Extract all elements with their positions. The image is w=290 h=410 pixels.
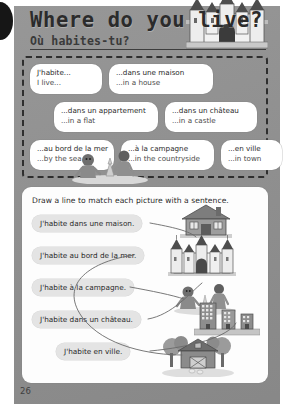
vocabulary-french: ...en ville <box>228 144 275 154</box>
vocabulary-french: ...dans une maison <box>116 68 206 78</box>
vocabulary-chip: ...dans une maison ...in a house <box>109 64 213 94</box>
page-title: Where do you live? <box>30 10 265 32</box>
vocabulary-french: J'habite... <box>37 68 95 78</box>
vocabulary-chip: ...dans un appartement ...in a flat <box>54 102 158 132</box>
vocabulary-row-1: J'habite... I live... ...dans une maison… <box>30 64 213 94</box>
page-subtitle: Où habites-tu? <box>30 34 265 48</box>
sentence-option[interactable]: J'habite au bord de la mer. <box>32 247 144 264</box>
exercise-card: Draw a line to match each picture with a… <box>22 187 268 383</box>
farm-countryside-illustration[interactable] <box>162 333 234 377</box>
vocabulary-french: ...dans un appartement <box>61 106 151 116</box>
beach-children-illustration <box>72 146 148 184</box>
house-illustration[interactable] <box>180 203 232 239</box>
vocabulary-chip: J'habite... I live... <box>30 64 102 94</box>
binding-hole-icon <box>0 2 13 40</box>
vocabulary-row-3: ...au bord de la mer ...by the sea ...à … <box>30 140 282 170</box>
sentence-option[interactable]: J'habite dans une maison. <box>32 215 142 232</box>
worksheet-page: Where do you live? Où habites-tu? J'habi… <box>0 0 290 410</box>
vocabulary-english: ...in a flat <box>61 116 151 126</box>
vocabulary-row-2: ...dans un appartement ...in a flat ...d… <box>54 102 257 132</box>
sentence-option[interactable]: J'habite à la campagne. <box>32 279 134 296</box>
vocabulary-english: ...in town <box>228 154 275 164</box>
city-buildings-illustration[interactable] <box>194 299 260 337</box>
vocabulary-english: I live... <box>37 78 95 88</box>
castle-illustration[interactable] <box>168 235 236 277</box>
vocabulary-english: ...in a castle <box>172 116 250 126</box>
vocabulary-english: ...in a house <box>116 78 206 88</box>
vocabulary-french: ...dans un château <box>172 106 250 116</box>
page-header: Where do you live? Où habites-tu? <box>30 10 265 48</box>
vocabulary-chip: ...en ville ...in town <box>221 140 282 170</box>
page-number: 26 <box>20 386 31 396</box>
sentence-option[interactable]: J'habite dans un château. <box>32 311 141 328</box>
sentence-option[interactable]: J'habite en ville. <box>56 343 130 360</box>
vocabulary-chip: ...dans un château ...in a castle <box>165 102 257 132</box>
